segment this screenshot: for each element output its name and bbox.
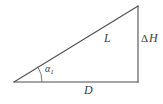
height-symbol: H <box>149 31 158 45</box>
alpha-subscript: 1 <box>50 68 54 76</box>
delta-glyph: Δ <box>141 32 149 44</box>
horizontal-leg-label: D <box>84 84 93 96</box>
hypotenuse-label: L <box>104 32 111 44</box>
vertical-leg-label: ΔH <box>141 32 158 44</box>
triangle-figure: L ΔH D α1 <box>0 0 163 104</box>
angle-label: α1 <box>45 64 54 76</box>
hypotenuse-line <box>14 6 138 82</box>
triangle-svg <box>0 0 163 104</box>
angle-arc-icon <box>38 67 42 82</box>
